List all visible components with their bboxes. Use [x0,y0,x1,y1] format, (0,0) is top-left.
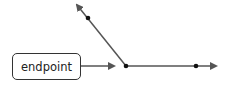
ray-right-point [194,64,199,69]
endpoint-label-box: endpoint [12,53,81,80]
endpoint-vertex [124,64,129,69]
endpoint-label: endpoint [21,60,72,74]
ray-upper-left-point [86,16,91,21]
ray-upper-left [77,5,126,66]
